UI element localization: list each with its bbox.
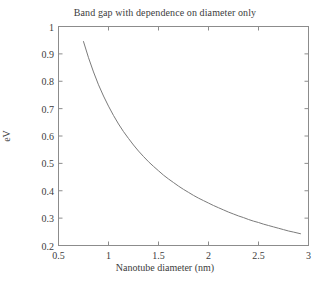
x-tick-label: 0.5 bbox=[52, 250, 65, 261]
tick-marks bbox=[59, 27, 309, 246]
data-series-line bbox=[84, 42, 301, 234]
x-tick-label: 3 bbox=[306, 250, 311, 261]
x-tick-label: 1 bbox=[106, 250, 111, 261]
axis-frame bbox=[59, 27, 309, 246]
y-tick-label: 0.9 bbox=[24, 48, 54, 59]
y-tick-label: 0.2 bbox=[24, 240, 54, 251]
y-tick-label: 0.6 bbox=[24, 131, 54, 142]
x-tick-label: 1.5 bbox=[152, 250, 165, 261]
x-axis-label: Nanotube diameter (nm) bbox=[0, 262, 330, 273]
y-axis-label: eV bbox=[1, 130, 12, 142]
y-tick-label: 0.5 bbox=[24, 158, 54, 169]
y-tick-label: 1 bbox=[24, 21, 54, 32]
y-tick-label: 0.3 bbox=[24, 213, 54, 224]
y-tick-label: 0.7 bbox=[24, 103, 54, 114]
x-tick-label: 2.5 bbox=[252, 250, 265, 261]
y-tick-label: 0.8 bbox=[24, 76, 54, 87]
x-tick-label: 2 bbox=[206, 250, 211, 261]
y-tick-label: 0.4 bbox=[24, 185, 54, 196]
chart-figure: Band gap with dependence on diameter onl… bbox=[0, 0, 330, 287]
